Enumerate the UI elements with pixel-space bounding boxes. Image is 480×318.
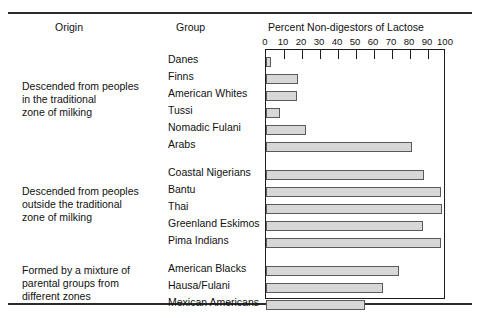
bar (266, 204, 442, 214)
top-rule (8, 12, 472, 14)
bar (266, 170, 424, 180)
x-axis-tick-labels: 0102030405060708090100 (0, 36, 480, 48)
origin-line: outside the traditional (22, 198, 172, 211)
bar (266, 266, 399, 276)
x-tick-label-20: 20 (296, 36, 307, 47)
group-label: Coastal Nigerians (168, 166, 251, 178)
x-tick-label-0: 0 (262, 36, 267, 47)
plot-area (265, 49, 445, 299)
chart-sheet: Origin Group Percent Non-digestors of La… (0, 0, 480, 318)
origin-block: Formed by a mixture ofparental groups fr… (22, 264, 172, 303)
x-tick-label-90: 90 (422, 36, 433, 47)
group-label: Greenland Eskimos (168, 217, 260, 229)
x-tick-label-60: 60 (368, 36, 379, 47)
bar (266, 238, 441, 248)
origin-line: in the traditional (22, 93, 172, 106)
origin-line: different zones (22, 290, 172, 303)
origin-line: Descended from peoples (22, 185, 172, 198)
group-label: Hausa/Fulani (168, 279, 230, 291)
x-tick-label-80: 80 (404, 36, 415, 47)
group-label: Arabs (168, 138, 195, 150)
bar (266, 108, 280, 118)
bar (266, 283, 383, 293)
bar (266, 57, 271, 67)
group-label: Danes (168, 53, 198, 65)
x-tick-label-10: 10 (278, 36, 289, 47)
bar (266, 74, 298, 84)
origin-line: zone of milking (22, 106, 172, 119)
group-label: Pima Indians (168, 234, 229, 246)
bar (266, 300, 365, 310)
x-tick-label-50: 50 (350, 36, 361, 47)
column-header-origin: Origin (55, 21, 83, 33)
origin-line: parental groups from (22, 277, 172, 290)
group-label: Nomadic Fulani (168, 121, 241, 133)
origin-block: Descended from peoplesoutside the tradit… (22, 185, 172, 224)
bar (266, 221, 423, 231)
bar (266, 91, 297, 101)
column-header-group: Group (176, 21, 205, 33)
x-tick-label-100: 100 (437, 36, 453, 47)
origin-line: zone of milking (22, 211, 172, 224)
bar (266, 125, 306, 135)
x-tick-label-40: 40 (332, 36, 343, 47)
origin-block: Descended from peoplesin the traditional… (22, 80, 172, 119)
bar (266, 142, 412, 152)
origin-line: Formed by a mixture of (22, 264, 172, 277)
origin-line: Descended from peoples (22, 80, 172, 93)
group-label: American Blacks (168, 262, 246, 274)
group-label: American Whites (168, 87, 247, 99)
x-tick-label-30: 30 (314, 36, 325, 47)
group-label: Mexican Americans (168, 296, 259, 308)
column-header-percent: Percent Non-digestors of Lactose (268, 21, 424, 33)
bar-series (266, 50, 444, 298)
group-label: Bantu (168, 183, 195, 195)
bar (266, 187, 441, 197)
x-tick-label-70: 70 (386, 36, 397, 47)
